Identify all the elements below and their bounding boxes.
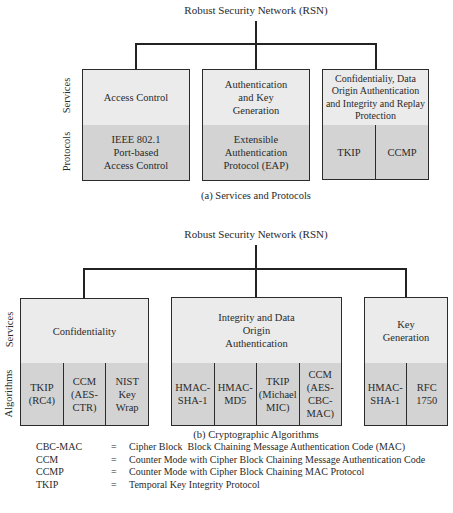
service-label: Access Control [83, 70, 189, 126]
connector [375, 43, 377, 70]
service-text: Key Generation [379, 318, 433, 344]
algorithm-cell: HMAC- SHA-1 [172, 363, 214, 425]
legend-row: TKIP = Temporal Key Integrity Protocol [36, 479, 425, 492]
connector [83, 268, 85, 298]
service-box-integrity-origin-auth: Integrity and Data Origin Authentication… [171, 297, 342, 426]
algorithm-cell: NIST Key Wrap [105, 363, 148, 425]
row-label-services: Services [4, 305, 15, 355]
diagram-a-caption: (a) Services and Protocols [156, 190, 356, 201]
diagram-b-caption: (b) Cryptographic Algorithms [156, 429, 356, 440]
algorithm-cell: CCM (AES- CBC- MAC) [299, 363, 342, 425]
service-label: Confidentiality [21, 299, 148, 364]
algorithm-cell: HMAC- MD5 [214, 363, 257, 425]
legend-definition: Cipher Block Block Chaining Message Auth… [129, 441, 405, 454]
service-label: Authentication and Key Generation [203, 70, 309, 126]
legend-definition: Counter Mode with Cipher Block Chaining … [129, 466, 364, 479]
connector [255, 245, 257, 269]
connector [135, 43, 137, 70]
legend-abbr: TKIP [36, 479, 111, 492]
legend-abbr: CBC-MAC [36, 441, 111, 454]
algorithm-cell: CCM (AES- CTR) [63, 363, 106, 425]
diagram-a-root-title: Robust Security Network (RSN) [156, 4, 356, 16]
service-label: Integrity and Data Origin Authentication [172, 298, 341, 364]
service-box-confidentiality: Confidentiality TKIP (RC4) CCM (AES- CTR… [20, 298, 149, 426]
diagram-b-root-title: Robust Security Network (RSN) [156, 228, 356, 240]
service-label: Key Generation [365, 298, 447, 364]
row-label-services: Services [61, 71, 72, 121]
row-label-protocols: Protocols [61, 122, 72, 182]
legend-equals: = [111, 454, 129, 467]
algorithm-cell: TKIP (RC4) [21, 363, 63, 425]
legend-row: CCM = Counter Mode with Cipher Block Cha… [36, 454, 425, 467]
connector [255, 43, 257, 70]
legend-equals: = [111, 466, 129, 479]
service-text: Confidentialiy, Data Origin Authenticati… [325, 73, 426, 123]
protocol-cell: Extensible Authentication Protocol (EAP) [203, 125, 309, 180]
legend-definition: Counter Mode with Cipher Block Chaining … [129, 454, 425, 467]
protocol-cell: IEEE 802.1 Port-based Access Control [83, 125, 189, 180]
service-box-key-generation: Key Generation HMAC- SHA-1 RFC 1750 [364, 297, 448, 426]
connector [405, 268, 407, 298]
algorithm-cell: RFC 1750 [406, 363, 448, 425]
algorithm-cell: TKIP (Michael MIC) [256, 363, 299, 425]
service-text: Integrity and Data Origin Authentication [217, 311, 296, 350]
service-box-access-control: Access Control IEEE 802.1 Port-based Acc… [82, 69, 190, 181]
legend-row: CCMP = Counter Mode with Cipher Block Ch… [36, 466, 425, 479]
service-box-confidentiality-integrity: Confidentialiy, Data Origin Authenticati… [322, 69, 429, 180]
legend-equals: = [111, 441, 129, 454]
abbreviation-legend: CBC-MAC = Cipher Block Block Chaining Me… [36, 441, 425, 491]
row-label-algorithms: Algorithms [3, 364, 14, 424]
legend-abbr: CCM [36, 454, 111, 467]
legend-equals: = [111, 479, 129, 492]
protocol-cell-tkip: TKIP [323, 125, 375, 179]
protocol-cell-ccmp: CCMP [375, 125, 428, 179]
legend-abbr: CCMP [36, 466, 111, 479]
legend-definition: Temporal Key Integrity Protocol [129, 479, 260, 492]
legend-row: CBC-MAC = Cipher Block Block Chaining Me… [36, 441, 425, 454]
service-label: Confidentialiy, Data Origin Authenticati… [323, 70, 428, 126]
connector [255, 21, 257, 44]
service-text: Authentication and Key Generation [217, 78, 295, 117]
service-box-auth-key-gen: Authentication and Key Generation Extens… [202, 69, 310, 181]
algorithm-cell: HMAC- SHA-1 [365, 363, 406, 425]
connector [83, 268, 407, 270]
connector [255, 268, 257, 298]
